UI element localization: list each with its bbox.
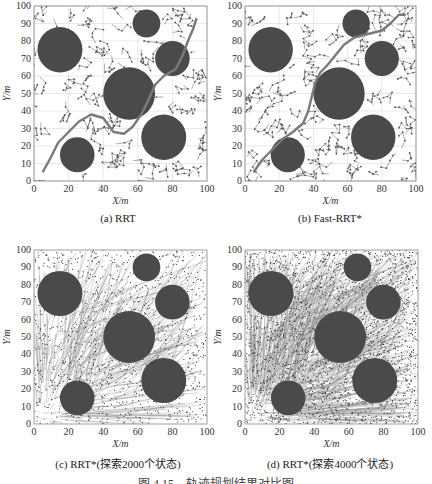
y-tick-label: 80 (21, 35, 31, 46)
y-tick-label: 10 (21, 401, 31, 412)
obstacle-circle (342, 10, 369, 38)
obstacle-circle (141, 358, 186, 403)
y-tick-label: 60 (21, 314, 31, 325)
tree-c (34, 250, 207, 425)
x-tick-label: 20 (274, 183, 284, 194)
y-axis-label: Y/m (212, 86, 223, 102)
y-tick-label: 30 (21, 123, 31, 134)
obstacle-circle (37, 271, 82, 316)
x-tick-label: 60 (133, 183, 143, 194)
obstacle-circle (314, 311, 366, 363)
caption-d: (d) RRT*(探索4000个状态) (222, 455, 432, 471)
y-tick-label: 0 (237, 175, 242, 186)
x-tick-label: 100 (409, 183, 424, 194)
plot-a: 0204060801000102030405060708090100X/mY/m (1, 0, 220, 206)
y-tick-label: 50 (232, 88, 242, 99)
plot-c: 0204060801000102030405060708090100X/mY/m (1, 244, 215, 449)
tree-a (20, 0, 220, 195)
x-tick-label: 100 (200, 183, 215, 194)
y-tick-label: 40 (232, 105, 242, 116)
x-tick-label: 80 (378, 426, 388, 437)
y-tick-label: 70 (232, 53, 242, 64)
x-tick-label: 0 (243, 183, 248, 194)
x-tick-label: 100 (200, 426, 215, 437)
y-tick-label: 20 (232, 140, 242, 151)
y-tick-label: 60 (232, 314, 242, 325)
obstacle-circle (344, 253, 372, 281)
x-tick-label: 40 (309, 426, 319, 437)
obstacle-circle (365, 41, 399, 76)
y-tick-label: 40 (21, 348, 31, 359)
y-tick-label: 20 (21, 383, 31, 394)
y-tick-label: 10 (21, 158, 31, 169)
x-tick-label: 80 (377, 183, 387, 194)
obstacle-circle (155, 285, 190, 320)
obstacle-circle (351, 115, 395, 161)
y-tick-label: 30 (232, 366, 242, 377)
x-tick-label: 60 (343, 183, 353, 194)
y-tick-label: 90 (232, 18, 242, 29)
y-tick-label: 100 (227, 244, 242, 255)
y-tick-label: 70 (21, 296, 31, 307)
y-tick-label: 0 (26, 175, 31, 186)
x-tick-label: 0 (32, 183, 37, 194)
obstacle-circle (60, 381, 95, 416)
x-tick-label: 20 (275, 426, 285, 437)
caption-c: (c) RRT*(探索2000个状态) (10, 455, 226, 471)
obstacle-circle (103, 311, 155, 363)
x-tick-label: 80 (167, 426, 177, 437)
y-tick-label: 70 (21, 53, 31, 64)
tree-b (238, 0, 432, 200)
plot-d: 0204060801000102030405060708090100X/mY/m (212, 244, 426, 449)
y-tick-label: 90 (21, 18, 31, 29)
obstacle-circle (352, 358, 397, 403)
obstacle-circle (271, 381, 306, 416)
y-tick-label: 90 (21, 261, 31, 272)
y-tick-label: 0 (26, 418, 31, 429)
y-tick-label: 80 (232, 279, 242, 290)
y-tick-label: 40 (232, 348, 242, 359)
x-tick-label: 60 (344, 426, 354, 437)
x-axis-label: X/m (111, 438, 128, 449)
y-tick-label: 60 (232, 70, 242, 81)
caption-a: (a) RRT (10, 212, 226, 224)
y-axis-label: Y/m (1, 329, 12, 345)
caption-b: (b) Fast-RRT* (222, 212, 432, 224)
y-tick-label: 80 (21, 279, 31, 290)
x-axis-label: X/m (321, 195, 338, 206)
figure-caption: 图 4.15 轨迹规划结果对比图 (0, 474, 432, 484)
x-tick-label: 0 (32, 426, 37, 437)
y-axis-label: Y/m (212, 329, 223, 345)
y-tick-label: 50 (21, 331, 31, 342)
x-tick-label: 20 (64, 426, 74, 437)
x-axis-label: X/m (322, 438, 339, 449)
obstacle-circle (133, 10, 161, 38)
y-tick-label: 60 (21, 70, 31, 81)
obstacle-circle (313, 67, 364, 120)
y-tick-label: 20 (232, 383, 242, 394)
y-tick-label: 40 (21, 105, 31, 116)
y-tick-label: 80 (232, 35, 242, 46)
x-tick-label: 40 (98, 183, 108, 194)
obstacle-circle (248, 271, 293, 316)
obstacle-circle (366, 285, 401, 320)
y-tick-label: 0 (237, 418, 242, 429)
x-tick-label: 40 (308, 183, 318, 194)
y-tick-label: 100 (16, 244, 31, 255)
y-tick-label: 100 (227, 0, 242, 11)
obstacle-circle (141, 115, 186, 161)
y-tick-label: 30 (21, 366, 31, 377)
obstacle-circle (37, 27, 82, 73)
obstacle-circle (60, 137, 95, 172)
plot-b: 0204060801000102030405060708090100X/mY/m (212, 0, 432, 206)
obstacle-circle (271, 137, 305, 172)
x-tick-label: 40 (98, 426, 108, 437)
y-tick-label: 50 (232, 331, 242, 342)
y-tick-label: 90 (232, 261, 242, 272)
y-axis-label: Y/m (1, 86, 12, 102)
y-tick-label: 10 (232, 401, 242, 412)
y-tick-label: 30 (232, 123, 242, 134)
obstacle-circle (103, 67, 155, 120)
y-tick-label: 70 (232, 296, 242, 307)
obstacle-circle (133, 253, 161, 281)
